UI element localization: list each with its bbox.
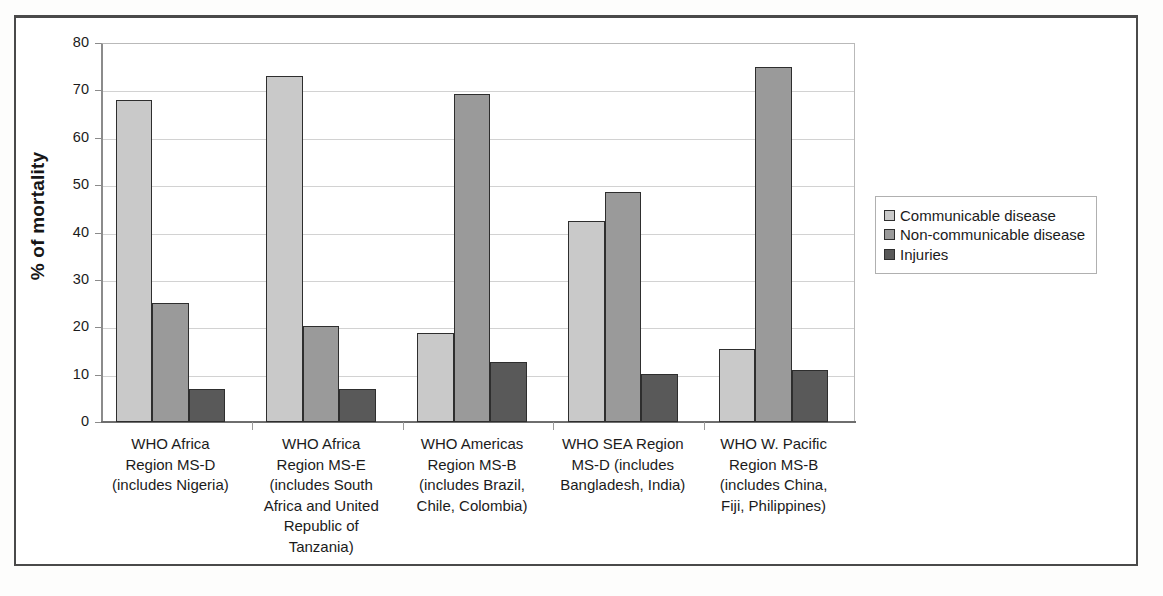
bar xyxy=(568,221,605,422)
y-axis-tick-mark xyxy=(95,138,101,139)
x-axis-category-label: WHO AmericasRegion MS-B(includes Brazil,… xyxy=(397,434,548,516)
bar xyxy=(641,374,678,422)
legend-item: Communicable disease xyxy=(884,207,1085,224)
bar xyxy=(266,76,303,422)
x-axis-label-line: Africa and United xyxy=(246,496,397,517)
x-axis-label-line: (includes Brazil, xyxy=(397,475,548,496)
x-axis-label-line: WHO W. Pacific xyxy=(698,434,849,455)
x-axis-label-line: WHO Africa xyxy=(95,434,246,455)
legend-item: Non-communicable disease xyxy=(884,226,1085,243)
x-axis-label-line: WHO Americas xyxy=(397,434,548,455)
y-axis-tick-label: 50 xyxy=(43,176,89,192)
x-axis-label-line: Republic of xyxy=(246,516,397,537)
y-axis-tick-label: 60 xyxy=(43,129,89,145)
bar xyxy=(417,333,454,422)
legend-label: Injuries xyxy=(900,246,948,263)
bar-chart: % of mortality 01020304050607080 WHO Afr… xyxy=(0,0,1163,596)
bar xyxy=(605,192,642,422)
y-axis-tick-mark xyxy=(95,280,101,281)
x-axis-label-line: Region MS-B xyxy=(698,455,849,476)
gridline xyxy=(103,91,854,92)
bar xyxy=(152,303,189,422)
bar xyxy=(454,94,491,422)
y-axis-tick-mark xyxy=(95,327,101,328)
x-axis-label-line: (includes Nigeria) xyxy=(95,475,246,496)
scanned-page: % of mortality 01020304050607080 WHO Afr… xyxy=(0,0,1163,596)
y-axis-tick-mark xyxy=(95,233,101,234)
x-axis-label-line: Bangladesh, India) xyxy=(547,475,698,496)
x-axis-label-line: (includes South xyxy=(246,475,397,496)
y-axis-tick-label: 70 xyxy=(43,81,89,97)
bar xyxy=(490,362,527,422)
bar xyxy=(189,389,226,422)
legend-item: Injuries xyxy=(884,246,1085,263)
y-axis-tick-label: 40 xyxy=(43,224,89,240)
x-axis-separator xyxy=(403,422,404,430)
x-axis-separator xyxy=(704,422,705,430)
bar xyxy=(116,100,153,422)
y-axis-tick-mark xyxy=(95,90,101,91)
x-axis-category-label: WHO AfricaRegion MS-E(includes SouthAfri… xyxy=(246,434,397,557)
y-axis-tick-mark xyxy=(95,43,101,44)
x-axis-category-label: WHO AfricaRegion MS-D(includes Nigeria) xyxy=(95,434,246,496)
bar xyxy=(339,389,376,422)
x-axis-category-label: WHO W. PacificRegion MS-B(includes China… xyxy=(698,434,849,516)
y-axis-tick-mark xyxy=(95,185,101,186)
legend-swatch-communicable xyxy=(884,210,895,221)
y-axis-tick-label: 80 xyxy=(43,34,89,50)
x-axis-label-line: (includes China, xyxy=(698,475,849,496)
x-axis-label-line: WHO Africa xyxy=(246,434,397,455)
y-axis-tick-label: 30 xyxy=(43,271,89,287)
bar xyxy=(719,349,756,422)
bar xyxy=(755,67,792,422)
y-axis-tick-mark xyxy=(95,375,101,376)
legend-swatch-injuries xyxy=(884,249,895,260)
legend-label: Communicable disease xyxy=(900,207,1056,224)
x-axis-label-line: Fiji, Philippines) xyxy=(698,496,849,517)
x-axis-label-line: WHO SEA Region xyxy=(547,434,698,455)
x-axis-category-label: WHO SEA RegionMS-D (includesBangladesh, … xyxy=(547,434,698,496)
y-axis-tick-label: 0 xyxy=(43,413,89,429)
x-axis-label-line: Chile, Colombia) xyxy=(397,496,548,517)
x-axis-label-line: Region MS-D xyxy=(95,455,246,476)
x-axis-label-line: Tanzania) xyxy=(246,537,397,558)
x-axis-separator xyxy=(553,422,554,430)
y-axis-tick-label: 10 xyxy=(43,366,89,382)
x-axis-label-line: Region MS-B xyxy=(397,455,548,476)
chart-legend: Communicable diseaseNon-communicable dis… xyxy=(875,196,1097,274)
bar xyxy=(303,326,340,422)
bar xyxy=(792,370,829,422)
x-axis-label-line: Region MS-E xyxy=(246,455,397,476)
x-axis-separator xyxy=(252,422,253,430)
y-axis-tick-label: 20 xyxy=(43,318,89,334)
legend-label: Non-communicable disease xyxy=(900,226,1085,243)
x-axis-label-line: MS-D (includes xyxy=(547,455,698,476)
y-axis-tick-mark xyxy=(95,422,101,423)
legend-swatch-non-communicable xyxy=(884,229,895,240)
